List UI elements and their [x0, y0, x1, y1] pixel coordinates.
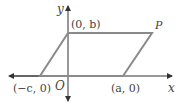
- parallelogram: [40, 33, 152, 76]
- point-label-0-b: (0, b): [71, 18, 101, 31]
- y-axis-label: y: [56, 2, 64, 16]
- point-label-a-0: (a, 0): [111, 82, 140, 95]
- origin-label: O: [55, 79, 65, 93]
- coordinate-diagram: y (0, b) P (−c, 0) O (a, 0) x: [0, 0, 181, 106]
- point-label-p: P: [154, 19, 163, 32]
- x-axis-label: x: [168, 81, 175, 95]
- point-label-neg-c-0: (−c, 0): [13, 82, 51, 95]
